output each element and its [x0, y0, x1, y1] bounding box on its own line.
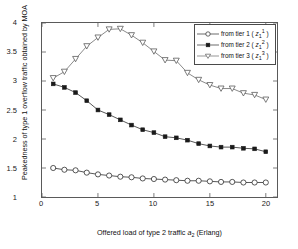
y-tick-label: 2 [0, 136, 17, 144]
data-point [207, 179, 212, 184]
y-axis-label: Peakedness of type 1 overflow traffic ob… [20, 3, 29, 183]
y-tick-label: 2.5 [0, 107, 17, 115]
legend-suffix-3: ) [265, 52, 269, 59]
data-point [96, 108, 100, 112]
legend-label-tier-2: from tier 2 ( z12 ) [221, 39, 271, 50]
data-point [263, 97, 269, 102]
y-tick-label: 3.5 [0, 48, 17, 56]
data-point [85, 99, 89, 103]
data-point [118, 174, 123, 179]
data-point [140, 176, 145, 181]
data-point [107, 113, 111, 117]
data-point [242, 146, 246, 150]
x-tick-label: 5 [87, 200, 107, 208]
series-1 [51, 165, 269, 185]
data-point [129, 33, 135, 38]
data-point [62, 86, 66, 90]
y-tick-label: 1.5 [0, 165, 17, 173]
open-circle-marker-icon [197, 29, 219, 39]
data-point [152, 131, 156, 135]
x-tick-label: 0 [31, 200, 51, 208]
data-point [51, 82, 55, 86]
legend-label-tier-3: from tier 3 ( z13 ) [221, 50, 271, 61]
data-point [230, 145, 234, 149]
data-point [184, 70, 190, 75]
data-point [208, 144, 212, 148]
data-point [263, 180, 268, 185]
legend-item-tier-1: from tier 1 ( z11 ) [197, 28, 273, 39]
x-axis-label: Offered load of type 2 traffic a2 (Erlan… [41, 228, 278, 238]
data-point [197, 142, 201, 146]
data-point [252, 180, 257, 185]
legend-label-tier-1: from tier 1 ( z11 ) [221, 28, 271, 39]
x-axis-label-suffix: (Erlang) [194, 228, 222, 237]
data-point [141, 128, 145, 132]
data-point [62, 167, 67, 172]
data-point [74, 91, 78, 95]
data-point [107, 173, 112, 178]
data-point [95, 172, 100, 177]
y-tick-label: 4 [0, 19, 17, 27]
series-2 [51, 82, 267, 154]
data-point [73, 168, 78, 173]
data-point [174, 136, 178, 140]
data-point [130, 123, 134, 127]
data-point [118, 118, 122, 122]
data-point [196, 178, 201, 183]
data-point [151, 176, 156, 181]
legend-prefix-3: from tier 3 ( [221, 52, 255, 59]
x-tick-label: 20 [256, 200, 276, 208]
legend-item-tier-2: from tier 2 ( z12 ) [197, 39, 273, 50]
legend-prefix-1: from tier 1 ( [221, 30, 255, 37]
legend-suffix-1: ) [265, 30, 269, 37]
data-point [253, 147, 257, 151]
data-point [84, 170, 89, 175]
data-point [51, 165, 56, 170]
data-point [61, 69, 67, 74]
filled-square-marker-icon [197, 40, 219, 50]
data-point [264, 150, 268, 154]
chart-figure: 4 3.5 3 2.5 2 1.5 1 0 5 10 15 20 Peakedn… [0, 0, 298, 249]
data-point [196, 77, 202, 82]
legend-suffix-2: ) [265, 41, 269, 48]
chart-legend: from tier 1 ( z11 ) from tier 2 ( z12 ) … [194, 24, 276, 65]
data-point [219, 145, 223, 149]
y-tick-label: 3 [0, 77, 17, 85]
x-axis-label-prefix: Offered load of type 2 traffic [97, 228, 187, 237]
legend-item-tier-3: from tier 3 ( z13 ) [197, 50, 273, 61]
x-tick-label: 10 [143, 200, 163, 208]
data-point [163, 177, 168, 182]
legend-prefix-2: from tier 2 ( [221, 41, 255, 48]
data-point [218, 179, 223, 184]
data-point [241, 180, 246, 185]
data-point [252, 92, 258, 97]
open-down-triangle-marker-icon [197, 51, 219, 61]
x-tick-label: 15 [200, 200, 220, 208]
data-point [129, 175, 134, 180]
data-point [50, 76, 56, 81]
y-tick-label: 1 [0, 194, 17, 202]
data-point [185, 178, 190, 183]
data-point [186, 138, 190, 142]
data-point [174, 178, 179, 183]
data-point [230, 179, 235, 184]
data-point [207, 83, 213, 88]
data-point [163, 135, 167, 139]
